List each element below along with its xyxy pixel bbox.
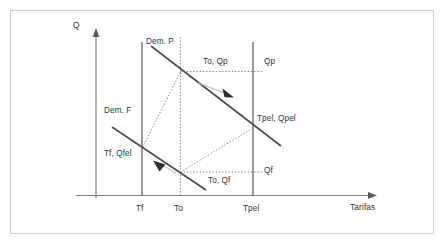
demand-f-label: Dem. F <box>104 107 131 115</box>
point-label-qf: Qf <box>264 167 273 175</box>
demand-p-label: Dem. P <box>146 38 174 46</box>
point-label-tpel-qpel: Tpel, Qpel <box>257 115 296 123</box>
diagonal-qp-to-qfel-dotted <box>142 72 181 149</box>
y-axis-arrowhead <box>93 28 100 37</box>
x-axis-arrowhead <box>368 192 377 199</box>
point-label-tf-qfel: Tf, Qfel <box>104 150 132 158</box>
y-axis-label: Q <box>73 21 80 29</box>
x-tick-label-tf: Tf <box>136 205 143 213</box>
demand-p-movement-arrow-shaft <box>198 83 225 93</box>
demand-f-line <box>112 127 206 190</box>
demand-p-movement-arrowhead <box>223 89 235 98</box>
point-label-to-qf: To, Qf <box>208 177 230 185</box>
x-axis-label: Tarifas <box>350 203 375 211</box>
point-label-to-qp: To, Qp <box>203 58 228 66</box>
chart-canvas <box>0 0 447 245</box>
figure-root: Q Tarifas Dem. P Dem. F To, Qp Qp Tpel, … <box>0 0 447 245</box>
x-tick-label-tpel: Tpel <box>243 205 259 213</box>
diagonal-qf-to-qpel-dotted <box>181 128 254 172</box>
x-tick-label-to: To <box>174 205 183 213</box>
point-label-qp: Qp <box>264 58 275 66</box>
